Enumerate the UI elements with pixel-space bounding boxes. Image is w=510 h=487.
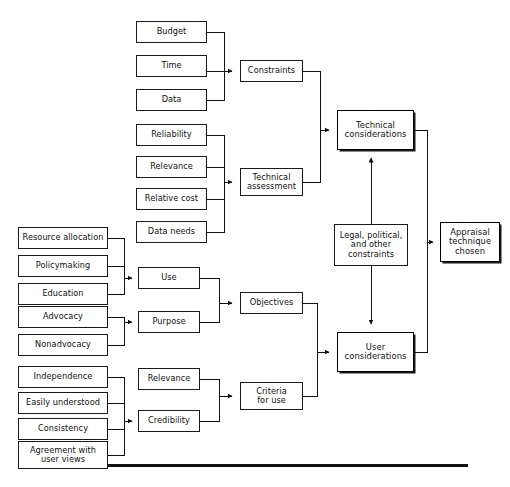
node-label: Time (159, 61, 183, 70)
node-reliability[interactable]: Reliability (136, 124, 207, 146)
node-label: Technical assessment (245, 173, 298, 191)
node-label: Constraints (246, 66, 297, 75)
node-label: Education (40, 289, 85, 298)
node-label: Advocacy (41, 312, 85, 321)
node-constraints[interactable]: Constraints (240, 60, 303, 82)
node-technical-assessment[interactable]: Technical assessment (240, 168, 303, 196)
node-technical-considerations[interactable]: Technical considerations (337, 110, 414, 150)
node-label: Use (159, 273, 178, 282)
node-label: Relevance (148, 162, 195, 171)
node-budget[interactable]: Budget (136, 21, 207, 43)
node-credibility[interactable]: Credibility (138, 410, 200, 432)
node-criteria-for-use[interactable]: Criteria for use (240, 382, 303, 410)
node-label: Agreement with user views (28, 446, 98, 464)
node-agreement-with-user-views[interactable]: Agreement with user views (18, 441, 108, 469)
node-appraisal-technique-chosen[interactable]: Appraisal technique chosen (440, 222, 500, 262)
node-label: Purpose (150, 317, 187, 326)
node-label: Appraisal technique chosen (447, 228, 493, 256)
node-label: Budget (155, 27, 189, 36)
node-policymaking[interactable]: Policymaking (18, 255, 108, 277)
node-label: Independence (32, 372, 95, 381)
node-label: Technical considerations (343, 121, 409, 140)
node-education[interactable]: Education (18, 283, 108, 305)
node-objectives[interactable]: Objectives (240, 292, 303, 314)
node-resource-allocation[interactable]: Resource allocation (18, 227, 108, 249)
node-nonadvocacy[interactable]: Nonadvocacy (18, 334, 108, 356)
node-relative-cost[interactable]: Relative cost (136, 188, 207, 210)
node-use[interactable]: Use (138, 267, 200, 289)
node-label: Policymaking (34, 261, 93, 270)
node-label: Relevance (146, 374, 193, 383)
node-relevance-technical[interactable]: Relevance (136, 156, 207, 178)
node-time[interactable]: Time (136, 55, 207, 77)
node-independence[interactable]: Independence (18, 366, 108, 388)
node-user-considerations[interactable]: User considerations (337, 332, 414, 372)
node-label: Legal, political, and other constraints (338, 231, 405, 259)
node-relevance-criteria[interactable]: Relevance (138, 368, 200, 390)
node-label: User considerations (343, 343, 409, 362)
node-label: Data needs (146, 227, 197, 236)
flowchart-diagram: Budget Time Data Constraints Reliability… (0, 0, 510, 487)
node-consistency[interactable]: Consistency (18, 418, 108, 440)
node-easily-understood[interactable]: Easily understood (18, 392, 108, 414)
node-label: Reliability (149, 130, 194, 139)
node-label: Data (160, 95, 184, 104)
node-purpose[interactable]: Purpose (138, 311, 200, 333)
node-data-needs[interactable]: Data needs (136, 221, 207, 243)
node-label: Objectives (248, 298, 296, 307)
node-legal-political-and-other-constraints[interactable]: Legal, political, and other constraints (334, 224, 408, 266)
node-label: Consistency (36, 424, 90, 433)
node-label: Relative cost (143, 194, 200, 203)
node-label: Credibility (146, 416, 192, 425)
node-label: Nonadvocacy (33, 340, 93, 349)
node-label: Criteria for use (254, 387, 289, 405)
node-data[interactable]: Data (136, 89, 207, 111)
node-advocacy[interactable]: Advocacy (18, 306, 108, 328)
node-label: Easily understood (24, 398, 102, 407)
node-label: Resource allocation (21, 233, 106, 242)
